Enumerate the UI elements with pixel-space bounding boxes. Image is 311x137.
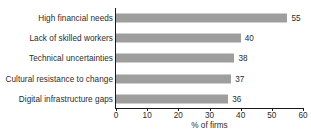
bar-row: Technical uncertainties38 [0,48,311,68]
category-label: Digital infrastructure gaps [19,94,113,103]
x-tick-label: 60 [298,111,307,120]
x-tick-label: 0 [114,111,119,120]
bar [116,34,241,43]
bar-value-label: 36 [232,94,241,103]
bar-value-label: 55 [291,14,300,23]
x-tick-label: 40 [236,111,245,120]
x-tick-label: 20 [174,111,183,120]
category-label: Cultural resistance to change [6,74,114,83]
x-tick-label: 30 [205,111,214,120]
bar [116,74,231,83]
x-tick-label: 50 [267,111,276,120]
category-label: High financial needs [38,14,113,23]
bar-row: Lack of skilled workers40 [0,28,311,48]
bar-row: Cultural resistance to change37 [0,69,311,89]
bar-chart: High financial needs55Lack of skilled wo… [0,0,311,137]
bar [116,54,234,63]
bar [116,14,287,23]
x-axis-ticks: 0102030405060 [0,108,311,120]
category-label: Lack of skilled workers [29,34,113,43]
bar-row: High financial needs55 [0,8,311,28]
category-label: Technical uncertainties [29,54,113,63]
bar-rows: High financial needs55Lack of skilled wo… [0,8,311,109]
bar-value-label: 37 [235,74,244,83]
x-tick-label: 10 [143,111,152,120]
bar [116,94,228,103]
bar-value-label: 38 [238,54,247,63]
bar-value-label: 40 [245,34,254,43]
x-axis-title: % of firms [116,121,303,130]
bar-row: Digital infrastructure gaps36 [0,89,311,109]
